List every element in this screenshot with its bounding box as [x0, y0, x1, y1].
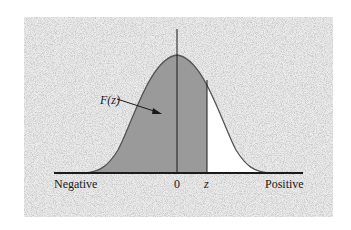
- positive-label: Positive: [265, 177, 304, 191]
- z-label: z: [203, 177, 209, 191]
- area-label: F(z): [99, 93, 120, 107]
- negative-label: Negative: [54, 177, 97, 191]
- normal-distribution-figure: F(z) Negative 0 z Positive: [0, 0, 351, 230]
- origin-label: 0: [174, 177, 180, 191]
